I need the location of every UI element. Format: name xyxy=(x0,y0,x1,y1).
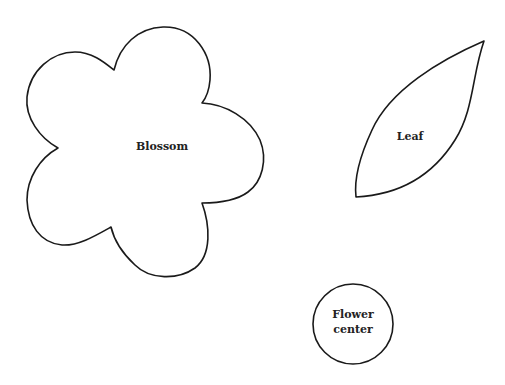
leaf-shape: Leaf xyxy=(356,41,484,197)
template-canvas: Blossom Leaf Flower center xyxy=(0,0,505,385)
blossom-shape: Blossom xyxy=(27,27,264,277)
flower-center-label-line1: Flower xyxy=(332,308,374,321)
flower-center-shape: Flower center xyxy=(313,284,393,364)
leaf-label: Leaf xyxy=(397,130,425,143)
blossom-label: Blossom xyxy=(136,140,189,153)
flower-center-label-line2: center xyxy=(333,323,373,336)
